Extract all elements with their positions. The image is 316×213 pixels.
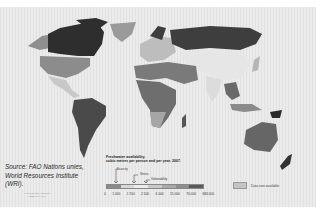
legend-color-scale xyxy=(106,184,204,189)
region-madagascar xyxy=(182,114,186,128)
no-data-label: Data non available xyxy=(251,184,279,188)
region-indonesia xyxy=(230,104,262,112)
legend-swatch-2 xyxy=(134,185,148,188)
legend-swatch-4 xyxy=(162,185,176,188)
legend-subtitle: cubic metres per person and per year, 20… xyxy=(106,159,236,163)
legend-swatch-5 xyxy=(176,185,190,188)
region-south-america xyxy=(72,98,106,158)
region-united-states xyxy=(40,56,90,78)
region-russia xyxy=(170,26,262,50)
legend-tick: 15 000 xyxy=(170,192,180,196)
map-legend: Freshwater availability, cubic metres pe… xyxy=(106,155,236,163)
legend-tick: 0 xyxy=(104,192,106,196)
threshold-arrows xyxy=(106,167,166,185)
no-data-swatch xyxy=(233,182,247,189)
legend-swatch-6 xyxy=(189,185,203,188)
region-mexico-central-america xyxy=(48,76,80,98)
source-caption: Source: FAO Nations unies, World Resourc… xyxy=(5,163,97,189)
region-europe xyxy=(140,36,176,62)
legend-tick: 1 000 xyxy=(112,192,120,196)
legend-swatch-3 xyxy=(148,185,162,188)
legend-no-data: Data non available xyxy=(233,182,279,189)
region-southeast-asia xyxy=(224,82,240,100)
region-greenland xyxy=(110,22,136,42)
region-australia xyxy=(244,122,278,152)
region-japan xyxy=(252,56,260,72)
legend-tick: 1 700 xyxy=(127,192,135,196)
legend-swatch-1 xyxy=(121,185,135,188)
region-canada xyxy=(48,24,104,56)
region-papua-new-guinea xyxy=(270,110,282,118)
credit-text: PHILIPPE REKACEWICZ FEBRUARY 2008 xyxy=(22,192,52,197)
legend-swatch-0 xyxy=(107,185,121,188)
legend-tick: 70 000 xyxy=(186,192,196,196)
legend-tick: 6 000 xyxy=(156,192,164,196)
region-india xyxy=(206,76,222,102)
legend-tick: 684 000 xyxy=(202,192,214,196)
legend-tick: 2 500 xyxy=(141,192,149,196)
legend-ticks: 0 1 000 1 700 2 500 6 000 15 000 70 000 … xyxy=(104,192,214,196)
region-new-zealand xyxy=(280,154,292,170)
